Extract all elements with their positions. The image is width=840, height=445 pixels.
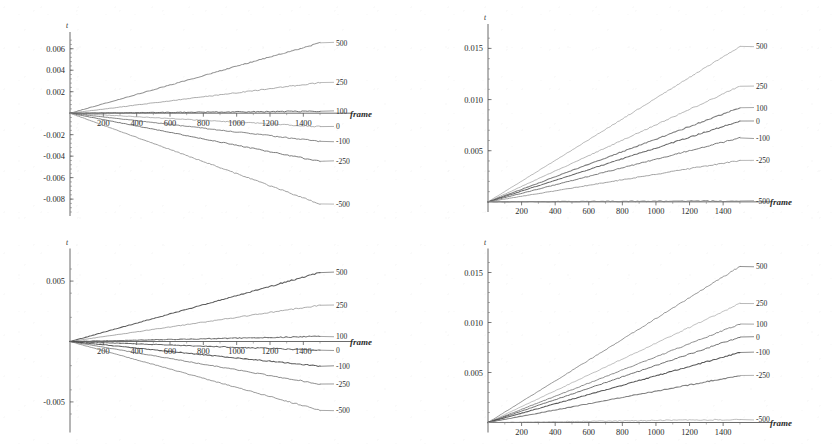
y-tick-label-top-left-1: 0.004: [46, 66, 66, 75]
figure-panel-grid: t2004006008001000120014000.0060.0040.002…: [0, 0, 840, 445]
x-axis-label-bottom-right: frame: [770, 418, 792, 428]
y-tick-label-top-right-2: 0.005: [464, 147, 483, 156]
series-label-top-right-100: 100: [756, 104, 768, 113]
y-axis-label-top-left: t: [66, 21, 69, 30]
series-label-bottom-left--100: -100: [336, 362, 350, 371]
x-tick-label-bottom-right-800: 800: [616, 428, 629, 437]
x-tick-label-top-right-800: 800: [616, 207, 629, 216]
series-label-bottom-right-0: 0: [756, 333, 760, 342]
series-line-top-right-500: [488, 47, 740, 202]
series-line-bottom-left-100: [70, 336, 320, 341]
series-line-top-right--250: [488, 160, 740, 202]
x-tick-label-top-right-1000: 1000: [648, 207, 665, 216]
series-label-top-left--100: -100: [336, 137, 350, 146]
x-tick-label-top-right-1200: 1200: [681, 207, 698, 216]
x-tick-label-bottom-right-1000: 1000: [648, 428, 665, 437]
series-label-bottom-left-250: 250: [336, 301, 348, 310]
series-label-bottom-left-500: 500: [336, 268, 348, 277]
y-tick-label-top-left-0: 0.006: [46, 45, 65, 54]
x-tick-label-bottom-right-1200: 1200: [681, 428, 698, 437]
y-tick-label-bottom-right-2: 0.005: [464, 369, 483, 378]
chart-svg-bottom-left: t2004006008001000120014000.005-0.005fram…: [0, 222, 420, 445]
y-axis-label-bottom-left: t: [66, 238, 69, 247]
series-label-bottom-left-100: 100: [336, 332, 348, 341]
y-tick-label-bottom-right-1: 0.010: [464, 319, 483, 328]
y-tick-label-top-left-6: -0.008: [43, 195, 65, 204]
series-line-top-left-250: [70, 82, 320, 113]
series-label-bottom-right-250: 250: [756, 299, 768, 308]
y-tick-label-top-right-0: 0.015: [464, 44, 483, 53]
series-label-top-right-500: 500: [756, 42, 768, 51]
y-axis-label-bottom-right: t: [484, 238, 487, 247]
series-label-top-right--100: -100: [756, 134, 770, 143]
series-label-bottom-right--500: -500: [756, 415, 770, 424]
y-tick-label-bottom-left-0: 0.005: [46, 277, 65, 286]
y-tick-label-bottom-left-1: -0.005: [43, 398, 65, 407]
x-tick-label-top-left-1200: 1200: [262, 119, 279, 128]
series-label-top-left--250: -250: [336, 157, 350, 166]
chart-panel-bottom-left: t2004006008001000120014000.005-0.005fram…: [0, 222, 420, 445]
x-tick-label-top-left-600: 600: [164, 119, 177, 128]
series-label-bottom-right-100: 100: [756, 320, 768, 329]
series-line-bottom-left-250: [70, 305, 320, 341]
series-label-top-right--250: -250: [756, 156, 770, 165]
series-line-top-right--100: [488, 137, 740, 201]
series-line-bottom-left-500: [70, 273, 320, 342]
series-label-bottom-right--250: -250: [756, 371, 770, 380]
chart-panel-top-left: t2004006008001000120014000.0060.0040.002…: [0, 0, 420, 222]
y-tick-label-top-left-4: -0.004: [43, 152, 65, 161]
y-tick-label-top-right-1: 0.010: [464, 96, 483, 105]
series-label-bottom-left-0: 0: [336, 346, 340, 355]
y-tick-label-top-left-5: -0.006: [43, 174, 65, 183]
series-label-top-left--500: -500: [336, 200, 350, 209]
chart-svg-top-left: t2004006008001000120014000.0060.0040.002…: [0, 0, 420, 222]
x-tick-label-bottom-left-1000: 1000: [228, 347, 245, 356]
chart-svg-bottom-right: t2004006008001000120014000.0150.0100.005…: [420, 222, 840, 445]
series-label-bottom-right--100: -100: [756, 348, 770, 357]
series-line-top-right-0: [488, 121, 740, 202]
series-line-bottom-left--250: [70, 341, 320, 384]
x-tick-label-top-right-1400: 1400: [715, 207, 732, 216]
series-label-bottom-left--500: -500: [336, 406, 350, 415]
x-tick-label-top-left-1400: 1400: [295, 119, 312, 128]
x-tick-label-top-right-600: 600: [582, 207, 595, 216]
series-line-top-left-500: [70, 42, 320, 113]
x-axis-label-top-left: frame: [350, 109, 372, 119]
y-tick-label-bottom-right-0: 0.015: [464, 269, 483, 278]
chart-panel-top-right: t2004006008001000120014000.0150.0100.005…: [420, 0, 840, 222]
x-tick-label-bottom-left-1400: 1400: [295, 347, 312, 356]
chart-svg-top-right: t2004006008001000120014000.0150.0100.005…: [420, 0, 840, 222]
x-axis-label-bottom-left: frame: [350, 337, 372, 347]
series-line-bottom-right-0: [488, 337, 740, 422]
series-label-top-right-250: 250: [756, 82, 768, 91]
series-leader-bottom-left-500: [320, 272, 334, 273]
series-label-top-left-500: 500: [336, 39, 348, 48]
series-label-top-left-100: 100: [336, 107, 348, 116]
x-axis-label-top-right: frame: [770, 197, 792, 207]
chart-panel-bottom-right: t2004006008001000120014000.0150.0100.005…: [420, 222, 840, 445]
y-tick-label-top-left-2: 0.002: [46, 88, 65, 97]
y-tick-label-top-left-3: -0.002: [43, 131, 65, 140]
y-axis-label-top-right: t: [484, 13, 487, 22]
series-label-bottom-right-500: 500: [756, 262, 768, 271]
x-tick-label-top-right-200: 200: [515, 207, 528, 216]
x-tick-label-top-left-1000: 1000: [228, 119, 245, 128]
series-label-top-right-0: 0: [756, 117, 760, 126]
series-line-bottom-right-100: [488, 325, 740, 423]
x-tick-label-bottom-right-1400: 1400: [715, 428, 732, 437]
series-line-top-right-250: [488, 86, 740, 202]
x-tick-label-top-right-400: 400: [549, 207, 562, 216]
series-label-top-left-0: 0: [336, 122, 340, 131]
series-label-top-left-250: 250: [336, 78, 348, 87]
series-leader-top-right--100: [740, 138, 754, 139]
series-label-top-right--500: -500: [756, 197, 770, 206]
series-label-bottom-left--250: -250: [336, 380, 350, 389]
series-line-bottom-left--500: [70, 341, 320, 410]
x-tick-label-bottom-right-200: 200: [515, 428, 528, 437]
series-line-top-right-100: [488, 108, 740, 202]
x-tick-label-bottom-right-600: 600: [582, 428, 595, 437]
x-tick-label-bottom-right-400: 400: [549, 428, 562, 437]
